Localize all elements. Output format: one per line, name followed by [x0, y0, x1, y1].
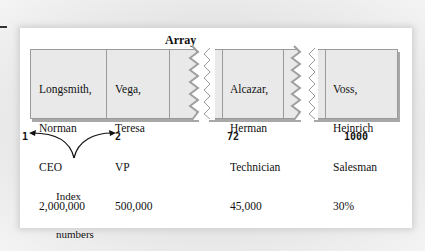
arrow-icon — [32, 133, 112, 158]
annotation-note: Index numbers same as employee numbers — [56, 165, 99, 251]
annotation-line: Index — [56, 190, 99, 203]
index-label: 1 — [22, 131, 28, 142]
torn-edge-icon — [190, 46, 318, 120]
index-label: 1000 — [344, 131, 368, 142]
index-label: 2 — [115, 131, 121, 142]
index-label: 72 — [227, 131, 239, 142]
annotation-line: numbers — [56, 228, 99, 241]
